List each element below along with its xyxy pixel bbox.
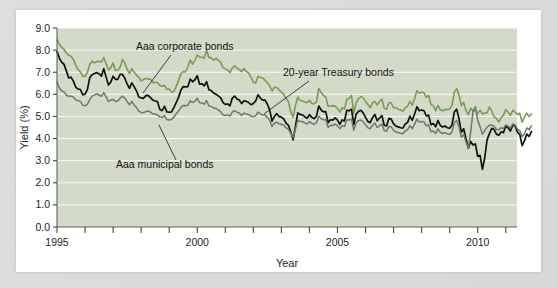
y-tick-label: 8.0	[35, 44, 50, 56]
x-tick-label: 2010	[466, 236, 490, 248]
x-tick-label: 1995	[45, 236, 69, 248]
y-axis: 0.01.02.03.04.05.06.07.08.09.0	[35, 22, 57, 233]
figure-root: 0.01.02.03.04.05.06.07.08.09.0 199520002…	[0, 0, 557, 288]
chart-card: 0.01.02.03.04.05.06.07.08.09.0 199520002…	[16, 10, 541, 272]
y-tick-label: 7.0	[35, 66, 50, 78]
y-tick-label: 5.0	[35, 110, 50, 122]
annotation-label-aaa-municipal-bonds: Aaa municipal bonds	[116, 158, 213, 170]
annotation-label-aaa-corporate-bonds: Aaa corporate bonds	[136, 40, 233, 52]
y-tick-label: 6.0	[35, 88, 50, 100]
x-tick-label: 2005	[326, 236, 350, 248]
x-tick-label: 2000	[186, 236, 210, 248]
y-tick-label: 4.0	[35, 132, 50, 144]
y-tick-label: 2.0	[35, 176, 50, 188]
y-tick-label: 9.0	[35, 22, 50, 34]
y-axis-title: Yield (%)	[18, 105, 30, 149]
x-axis-title: Year	[276, 257, 299, 269]
annotation-label-twenty-year-treasury-bonds: 20-year Treasury bonds	[283, 66, 394, 78]
y-tick-label: 3.0	[35, 154, 50, 166]
x-axis: 1995200020052010	[45, 227, 517, 248]
y-tick-label: 0.0	[35, 221, 50, 233]
y-tick-label: 1.0	[35, 198, 50, 210]
yield-chart: 0.01.02.03.04.05.06.07.08.09.0 199520002…	[16, 10, 541, 272]
